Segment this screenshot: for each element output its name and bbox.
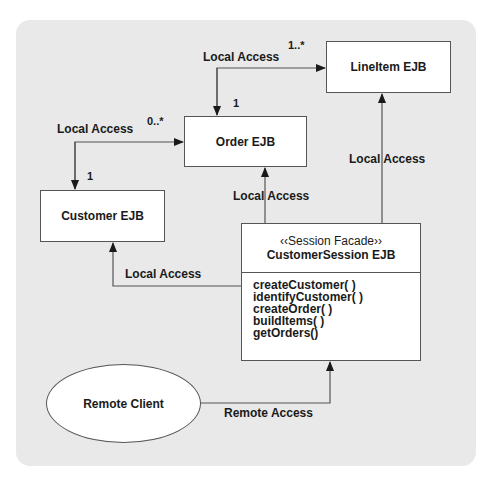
edge-label-session-lineitem: Local Access [349,152,425,166]
session-operations: createCustomer( ) identifyCustomer( ) cr… [242,273,420,339]
edge-label-client-session: Remote Access [224,406,313,420]
lineitem-ejb-label: LineItem EJB [350,60,426,74]
mult-order-0n: 0..* [147,115,164,127]
edge-client-session [200,362,330,403]
edge-label-session-customer: Local Access [125,267,201,281]
mult-customer-1: 1 [87,170,93,182]
remote-client-ellipse: Remote Client [46,364,201,443]
edge-label-customer-order: Local Access [57,122,133,136]
remote-client-label: Remote Client [83,397,164,411]
session-name: CustomerSession EJB [267,248,396,262]
session-stereotype: ‹‹Session Facade›› [280,234,382,248]
order-ejb-label: Order EJB [216,135,275,149]
edge-label-session-order: Local Access [233,189,309,203]
lineitem-ejb-box: LineItem EJB [326,41,451,93]
customer-ejb-box: Customer EJB [40,190,165,242]
operation: getOrders() [253,327,420,339]
edge-label-order-lineitem: Local Access [203,50,279,64]
customer-session-ejb-box: ‹‹Session Facade›› CustomerSession EJB c… [241,223,421,361]
session-header: ‹‹Session Facade›› CustomerSession EJB [242,224,420,273]
mult-order-1: 1 [233,97,239,109]
order-ejb-box: Order EJB [184,116,307,167]
mult-lineitem: 1..* [288,39,305,51]
customer-ejb-label: Customer EJB [61,209,144,223]
